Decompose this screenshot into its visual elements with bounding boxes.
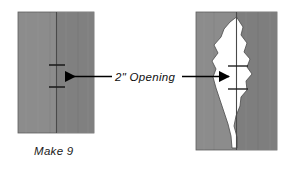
turned-fabric-piece	[196, 12, 277, 150]
make-nine-caption: Make 9	[34, 145, 74, 157]
opening-label: 2" Opening	[114, 71, 175, 83]
flat-fabric-piece: Make 9	[18, 12, 94, 157]
left-fabric-shade	[57, 12, 94, 133]
diagram-canvas: Make 9 2" Opening	[0, 0, 293, 169]
pattern-diagram: Make 9 2" Opening	[0, 0, 293, 169]
